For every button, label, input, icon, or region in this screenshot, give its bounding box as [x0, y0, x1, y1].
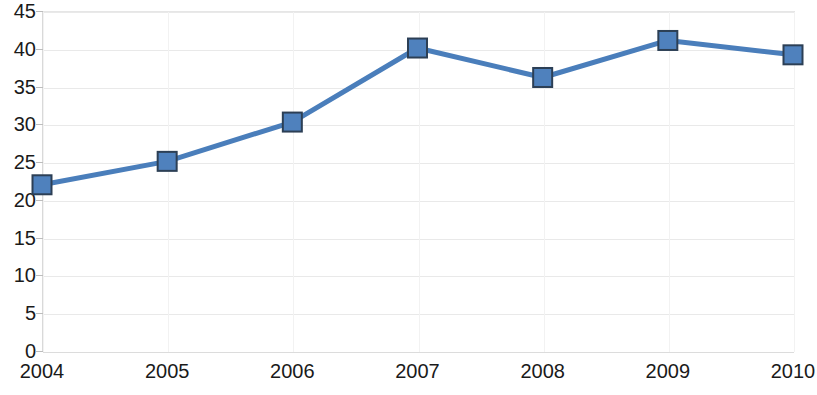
y-tick-label: 0 [0, 341, 36, 361]
y-tick-label: 40 [0, 39, 36, 59]
gridline-x-2005 [168, 12, 169, 352]
x-tick-label-2006: 2006 [270, 361, 315, 381]
y-tick-mark [36, 87, 43, 88]
x-tick-label-2009: 2009 [646, 361, 691, 381]
y-tick-mark [36, 351, 43, 352]
y-tick-mark [36, 124, 43, 125]
gridline-x-2007 [419, 12, 420, 352]
y-tick-mark [36, 11, 43, 12]
y-tick-label: 15 [0, 228, 36, 248]
x-tick-label-2008: 2008 [520, 361, 565, 381]
y-tick-label: 45 [0, 1, 36, 21]
y-tick-label: 25 [0, 152, 36, 172]
y-tick-mark [36, 275, 43, 276]
gridline-x-2009 [669, 12, 670, 352]
gridline-x-2010 [794, 12, 795, 352]
y-tick-mark [36, 162, 43, 163]
plot-area [42, 11, 795, 352]
x-tick-label-2004: 2004 [20, 361, 65, 381]
y-tick-label: 10 [0, 265, 36, 285]
gridline-x-2008 [544, 12, 545, 352]
y-tick-label: 5 [0, 303, 36, 323]
line-chart: 051015202530354045 200420052006200720082… [0, 0, 817, 395]
x-tick-label-2005: 2005 [145, 361, 190, 381]
y-tick-label: 30 [0, 114, 36, 134]
y-axis: 051015202530354045 [0, 0, 36, 395]
y-tick-label: 35 [0, 77, 36, 97]
y-tick-mark [36, 49, 43, 50]
y-tick-label: 20 [0, 190, 36, 210]
y-tick-mark [36, 313, 43, 314]
x-tick-label-2007: 2007 [395, 361, 440, 381]
y-tick-mark [36, 238, 43, 239]
x-tick-label-2010: 2010 [771, 361, 816, 381]
gridline-x-2004 [43, 12, 44, 352]
gridline-y-0 [43, 352, 794, 353]
gridline-x-2006 [293, 12, 294, 352]
y-tick-mark [36, 200, 43, 201]
